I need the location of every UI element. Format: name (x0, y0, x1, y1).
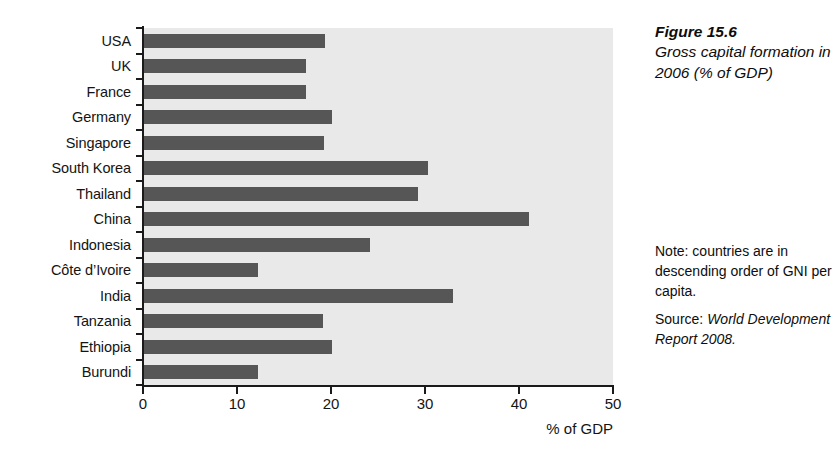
y-axis-tick (136, 27, 143, 29)
y-axis-tick (136, 104, 143, 106)
x-axis-tick (424, 387, 426, 394)
y-axis-tick (136, 333, 143, 335)
x-axis-tick-label: 50 (605, 396, 622, 411)
x-axis-tick-label: 30 (417, 396, 434, 411)
y-axis-tick (136, 155, 143, 157)
bar (143, 161, 428, 175)
bar-row (143, 105, 613, 131)
figure-page: USAUKFranceGermanySingaporeSouth KoreaTh… (0, 0, 833, 454)
bar-row (143, 309, 613, 335)
y-axis-tick (136, 78, 143, 80)
bar-series (143, 28, 613, 385)
x-axis-tick-label: 0 (139, 396, 147, 411)
bar-row (143, 181, 613, 207)
y-axis-tick (136, 231, 143, 233)
bar (143, 59, 306, 73)
y-axis-tick (136, 282, 143, 284)
y-axis-label: India (0, 283, 137, 309)
y-axis-category-labels: USAUKFranceGermanySingaporeSouth KoreaTh… (0, 28, 137, 385)
bar (143, 85, 306, 99)
x-axis-tick (236, 387, 238, 394)
y-axis-label: Germany (0, 105, 137, 131)
x-axis-title: % of GDP (443, 421, 613, 436)
y-axis-tick (136, 53, 143, 55)
bar (143, 187, 418, 201)
bar-row (143, 156, 613, 182)
bar (143, 34, 325, 48)
y-axis-tick (136, 180, 143, 182)
bar-row (143, 360, 613, 386)
figure-caption: Figure 15.6 Gross capital formation in 2… (655, 22, 833, 83)
x-axis-tick-label: 20 (323, 396, 340, 411)
y-axis-label: UK (0, 54, 137, 80)
bar-row (143, 258, 613, 284)
bar (143, 238, 370, 252)
y-axis-tick (136, 359, 143, 361)
y-axis-label: Burundi (0, 360, 137, 386)
y-axis-label: Indonesia (0, 232, 137, 258)
x-axis-tick (142, 387, 144, 394)
y-axis-tick (136, 129, 143, 131)
x-axis-tick-label: 40 (511, 396, 528, 411)
y-axis-label: Ethiopia (0, 334, 137, 360)
y-axis-tick (136, 384, 143, 386)
x-axis-tick (518, 387, 520, 394)
bar-row (143, 283, 613, 309)
bar-row (143, 28, 613, 54)
bar (143, 365, 258, 379)
bar-row (143, 54, 613, 80)
bar-row (143, 79, 613, 105)
y-axis-label: Singapore (0, 130, 137, 156)
y-axis-label: Thailand (0, 181, 137, 207)
x-axis-tick-label: 10 (229, 396, 246, 411)
figure-number: Figure 15.6 (655, 22, 833, 42)
y-axis-label: Tanzania (0, 309, 137, 335)
y-axis-label: China (0, 207, 137, 233)
bar (143, 340, 332, 354)
bar (143, 314, 323, 328)
bar (143, 289, 453, 303)
bar-row (143, 130, 613, 156)
y-axis-label: USA (0, 28, 137, 54)
plot-area (143, 28, 613, 385)
bar (143, 212, 529, 226)
bar (143, 263, 258, 277)
figure-title: Gross capital formation in 2006 (% of GD… (655, 42, 833, 83)
y-axis-tick (136, 308, 143, 310)
source-label: Source: (655, 311, 703, 327)
bar-chart: USAUKFranceGermanySingaporeSouth KoreaTh… (0, 0, 640, 454)
x-axis-line (142, 385, 614, 387)
bar (143, 110, 332, 124)
caption-column: Figure 15.6 Gross capital formation in 2… (655, 0, 833, 454)
x-axis-tick (330, 387, 332, 394)
y-axis-label: France (0, 79, 137, 105)
y-axis-tick (136, 206, 143, 208)
y-axis-tick (136, 257, 143, 259)
bar (143, 136, 324, 150)
figure-source: Source: World Development Report 2008. (655, 310, 833, 350)
y-axis-label: Côte d’Ivoire (0, 258, 137, 284)
figure-note: Note: countries are in descending order … (655, 242, 833, 302)
bar-row (143, 207, 613, 233)
x-axis-tick (612, 387, 614, 394)
bar-row (143, 334, 613, 360)
bar-row (143, 232, 613, 258)
y-axis-label: South Korea (0, 156, 137, 182)
